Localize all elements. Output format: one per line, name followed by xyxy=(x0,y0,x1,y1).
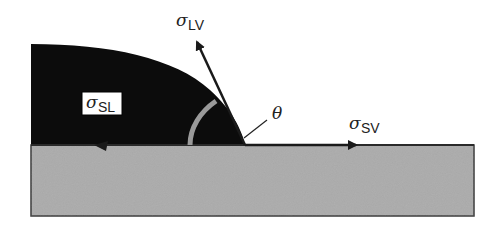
sigma-lv-label: σ LV xyxy=(176,10,205,33)
sigma-sv-label: σ SV xyxy=(349,113,380,136)
sigma-lv-subscript: LV xyxy=(188,17,205,33)
sigma-sl-subscript: SL xyxy=(98,99,115,115)
contact-angle-diagram: σ LV σ SL σ SV θ xyxy=(0,0,489,227)
sigma-sv-symbol: σ xyxy=(349,113,361,133)
droplet xyxy=(31,44,245,145)
sigma-lv-symbol: σ xyxy=(176,10,188,30)
substrate-texture xyxy=(31,145,474,216)
sigma-sl-label: σ SL xyxy=(82,92,122,115)
sigma-sv-subscript: SV xyxy=(361,120,380,136)
sigma-sl-symbol: σ xyxy=(86,92,98,112)
theta-leader-line xyxy=(244,120,267,138)
theta-label: θ xyxy=(272,103,282,123)
